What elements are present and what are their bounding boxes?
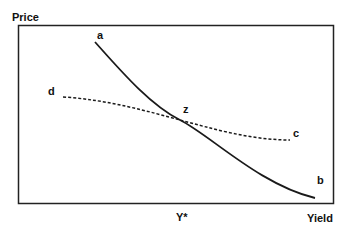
intersection-label: z bbox=[183, 104, 189, 115]
curve-ab-start-label: a bbox=[97, 30, 103, 41]
x-marker-label: Y* bbox=[176, 212, 188, 223]
curve-dc-end-label: c bbox=[293, 128, 299, 139]
curve-dc bbox=[63, 97, 290, 140]
x-axis-label: Yield bbox=[307, 213, 333, 224]
y-axis-label: Price bbox=[12, 12, 39, 23]
diagram-canvas bbox=[0, 0, 350, 229]
curve-ab-end-label: b bbox=[317, 175, 324, 186]
curve-dc-start-label: d bbox=[48, 86, 55, 97]
curve-ab bbox=[95, 42, 315, 198]
plot-frame bbox=[19, 26, 334, 204]
